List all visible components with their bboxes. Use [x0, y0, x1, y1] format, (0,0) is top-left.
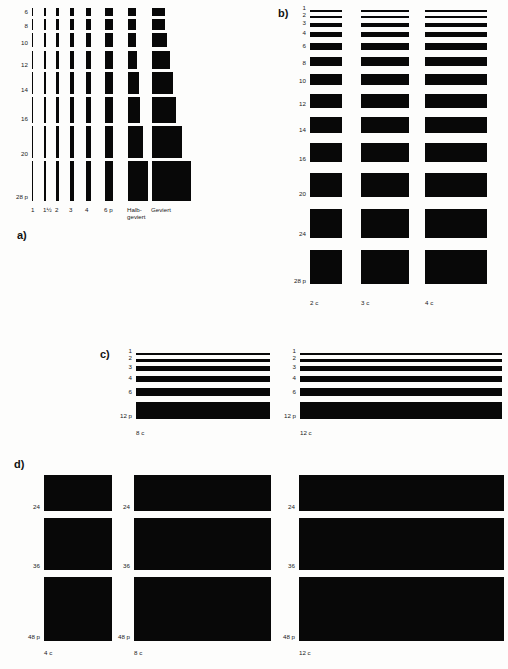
- row-label-c-1-4: 6: [268, 389, 296, 395]
- bar-a-r1-c4: [86, 19, 91, 30]
- specimen-sheet: a) 68101214162028 p 11½2346 pHalb-Gevier…: [0, 0, 508, 669]
- row-label-d-1-1: 36: [102, 563, 130, 569]
- bar-a-r0-c4: [86, 8, 91, 16]
- bar-a-r6-c2: [56, 126, 59, 158]
- bar-b-r0-c1: [361, 10, 409, 12]
- row-label-a-7: 28 p: [0, 194, 28, 200]
- bar-a-r6-c1: [44, 126, 46, 158]
- col-label-a-5: 6 p: [104, 206, 113, 213]
- bar-a-r2-c1: [44, 33, 46, 47]
- row-label-c-1-1: 2: [268, 355, 296, 361]
- bar-d-r2-c0: [44, 577, 112, 641]
- row-label-d-0-0: 24: [12, 504, 40, 510]
- row-label-c-0-3: 4: [104, 375, 132, 381]
- row-label-a-2: 10: [0, 40, 28, 46]
- bar-a-r1-c3: [70, 19, 74, 30]
- bar-c-r3-c0: [136, 376, 270, 382]
- bar-b-r11-c1: [361, 209, 409, 238]
- bar-a-r6-c0: [32, 126, 33, 158]
- bar-a-r1-c5: [105, 19, 113, 30]
- bar-a-r5-c2: [56, 97, 59, 123]
- row-label-b-10: 20: [278, 191, 306, 197]
- bar-b-r7-c1: [361, 94, 409, 108]
- bar-b-r3-c2: [425, 32, 487, 37]
- bar-a-r4-c3: [70, 72, 74, 94]
- bar-a-r7-c5: [105, 161, 113, 201]
- row-label-b-12: 28 p: [278, 278, 306, 284]
- row-label-a-6: 20: [0, 151, 28, 157]
- bar-c-r4-c1: [300, 388, 502, 396]
- bar-b-r12-c0: [310, 250, 342, 284]
- section-d-label: d): [14, 458, 24, 470]
- row-label-c-0-0: 1: [104, 348, 132, 354]
- bar-d-r1-c1: [134, 518, 271, 570]
- row-label-b-2: 3: [278, 20, 306, 26]
- col-label-a-1: 1½: [43, 206, 52, 213]
- bar-b-r2-c1: [361, 23, 409, 27]
- bar-a-r3-c2: [56, 51, 59, 69]
- bar-a-r3-c7: [152, 51, 170, 69]
- row-label-c-0-1: 2: [104, 355, 132, 361]
- bar-a-r4-c0: [32, 72, 33, 94]
- col-label-a-7: Geviert: [151, 206, 171, 213]
- col-label-d-2: 12 c: [299, 649, 311, 656]
- row-label-b-7: 12: [278, 101, 306, 107]
- bar-a-r0-c7: [152, 8, 165, 16]
- bar-b-r5-c0: [310, 57, 342, 66]
- row-label-b-5: 8: [278, 60, 306, 66]
- bar-d-r0-c1: [134, 475, 271, 511]
- bar-b-r5-c2: [425, 57, 487, 66]
- bar-c-r1-c0: [136, 359, 270, 362]
- col-label-d-0: 4 c: [44, 649, 52, 656]
- row-label-c-1-5: 12 p: [268, 413, 296, 419]
- row-label-d-2-2: 48 p: [267, 634, 295, 640]
- bar-b-r10-c2: [425, 173, 487, 197]
- col-label-a-0: 1: [31, 206, 34, 213]
- bar-a-r6-c3: [70, 126, 74, 158]
- bar-a-r5-c6: [128, 97, 140, 123]
- bar-b-r7-c2: [425, 94, 487, 108]
- bar-b-r2-c0: [310, 23, 342, 27]
- bar-a-r1-c2: [56, 19, 59, 30]
- bar-a-r5-c5: [105, 97, 113, 123]
- bar-a-r0-c1: [44, 8, 46, 16]
- bar-c-r2-c0: [136, 366, 270, 371]
- col-label-a-4: 4: [85, 206, 88, 213]
- bar-b-r11-c0: [310, 209, 342, 238]
- bar-b-r9-c1: [361, 143, 409, 162]
- bar-a-r5-c4: [86, 97, 91, 123]
- bar-b-r12-c1: [361, 250, 409, 284]
- row-label-b-11: 24: [278, 231, 306, 237]
- section-d: d) 243648 p243648 p243648 p 4 c8 c12 c: [0, 455, 508, 669]
- bar-c-r5-c1: [300, 402, 502, 419]
- bar-c-r0-c0: [136, 353, 270, 355]
- bar-a-r7-c6: [128, 161, 148, 201]
- bar-b-r6-c2: [425, 74, 487, 85]
- bar-b-r4-c2: [425, 43, 487, 50]
- row-label-c-0-2: 3: [104, 364, 132, 370]
- bar-a-r1-c0: [32, 19, 33, 30]
- row-label-d-2-1: 36: [267, 563, 295, 569]
- section-a: a) 68101214162028 p 11½2346 pHalb-Gevier…: [0, 0, 250, 250]
- row-label-b-3: 4: [278, 30, 306, 36]
- bar-a-r7-c7: [152, 161, 191, 201]
- bar-a-r6-c4: [86, 126, 91, 158]
- bar-a-r2-c6: [128, 33, 136, 47]
- col-label-a-2: 2: [55, 206, 58, 213]
- bar-a-r5-c3: [70, 97, 74, 123]
- bar-d-r2-c1: [134, 577, 271, 641]
- row-label-b-9: 16: [278, 156, 306, 162]
- row-label-a-1: 8: [0, 23, 28, 29]
- bar-c-r1-c1: [300, 359, 502, 362]
- row-label-a-0: 6: [0, 9, 28, 15]
- bar-b-r9-c0: [310, 143, 342, 162]
- bar-a-r6-c6: [128, 126, 143, 158]
- bar-b-r8-c0: [310, 117, 342, 133]
- row-label-b-4: 6: [278, 43, 306, 49]
- row-label-d-1-2: 48 p: [102, 634, 130, 640]
- col-label-a-6: Halb-: [127, 206, 142, 213]
- bar-a-r5-c0: [32, 97, 33, 123]
- bar-a-r7-c0: [32, 161, 33, 201]
- row-label-c-1-3: 4: [268, 375, 296, 381]
- bar-a-r2-c3: [70, 33, 74, 47]
